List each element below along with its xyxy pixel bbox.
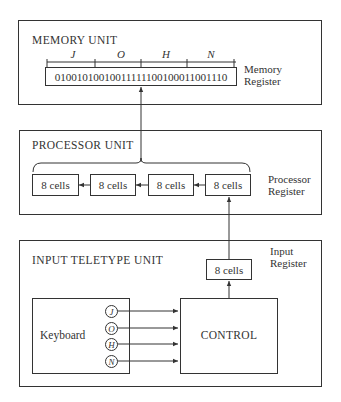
memory-register-label: Memory Register bbox=[244, 63, 282, 87]
processor-unit-title: PROCESSOR UNIT bbox=[32, 139, 134, 151]
processor-cell-1: 8 cells bbox=[32, 174, 79, 196]
key-o: O bbox=[105, 322, 118, 335]
key-n: N bbox=[105, 355, 118, 368]
segment-letter-o: O bbox=[117, 48, 125, 60]
memory-unit-title: MEMORY UNIT bbox=[32, 34, 117, 46]
input-register-cell: 8 cells bbox=[206, 259, 252, 280]
memory-register: 01001010010011111100100011001110 bbox=[45, 67, 237, 86]
segment-letter-j: J bbox=[71, 48, 76, 60]
processor-cell-4: 8 cells bbox=[205, 174, 251, 196]
key-j: J bbox=[105, 305, 118, 318]
keyboard-label: Keyboard bbox=[40, 329, 85, 341]
processor-cell-3: 8 cells bbox=[148, 174, 194, 196]
segment-letter-n: N bbox=[207, 48, 214, 60]
input-unit-title: INPUT TELETYPE UNIT bbox=[32, 254, 163, 266]
segment-letter-h: H bbox=[162, 48, 170, 60]
control-label: CONTROL bbox=[180, 329, 278, 341]
processor-cell-2: 8 cells bbox=[90, 174, 136, 196]
key-h: H bbox=[105, 338, 118, 351]
processor-register-label: Processor Register bbox=[268, 173, 311, 197]
input-register-label: Input Register bbox=[270, 245, 307, 269]
